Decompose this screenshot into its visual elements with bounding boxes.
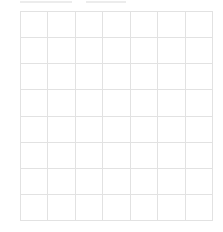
- grid-cell: [76, 143, 103, 169]
- grid-cell: [76, 117, 103, 143]
- grid-cell: [103, 117, 130, 143]
- grid-cell: [103, 38, 130, 64]
- grid-cell: [158, 12, 185, 38]
- grid-cell: [48, 117, 75, 143]
- grid-cell: [186, 38, 213, 64]
- grid-cell: [76, 90, 103, 116]
- grid-cell: [103, 12, 130, 38]
- grid-cell: [158, 38, 185, 64]
- grid-cell: [48, 38, 75, 64]
- grid-cell: [48, 12, 75, 38]
- grid-cell: [21, 143, 48, 169]
- grid-cell: [103, 90, 130, 116]
- grid-cell: [186, 64, 213, 90]
- grid-cell: [186, 12, 213, 38]
- grid-cell: [158, 117, 185, 143]
- grid-cell: [21, 195, 48, 221]
- grid-cell: [103, 64, 130, 90]
- grid-cell: [76, 38, 103, 64]
- grid-cell: [76, 169, 103, 195]
- grid-cell: [131, 90, 158, 116]
- grid-cell: [131, 64, 158, 90]
- grid-cell: [186, 117, 213, 143]
- grid-cell: [48, 90, 75, 116]
- grid-cell: [76, 12, 103, 38]
- grid-cell: [21, 12, 48, 38]
- grid-cell: [131, 195, 158, 221]
- grid-cell: [103, 143, 130, 169]
- grid-cell: [103, 195, 130, 221]
- grid-cell: [186, 195, 213, 221]
- grid-cell: [186, 169, 213, 195]
- grid-cell: [131, 169, 158, 195]
- grid-cell: [158, 64, 185, 90]
- empty-grid: [20, 11, 213, 221]
- grid-cell: [21, 90, 48, 116]
- grid-cell: [131, 143, 158, 169]
- grid-cell: [76, 64, 103, 90]
- grid-cell: [21, 64, 48, 90]
- grid-cell: [131, 12, 158, 38]
- clipped-text-segment: [86, 0, 126, 3]
- grid-cell: [158, 143, 185, 169]
- grid-cell: [186, 90, 213, 116]
- grid-cell: [158, 169, 185, 195]
- clipped-header-text: [20, 0, 200, 4]
- grid-cell: [131, 38, 158, 64]
- grid-cell: [21, 169, 48, 195]
- grid-cell: [48, 143, 75, 169]
- grid-cell: [48, 169, 75, 195]
- grid-cell: [103, 169, 130, 195]
- grid-cell: [158, 90, 185, 116]
- grid-cell: [48, 195, 75, 221]
- grid-cell: [21, 38, 48, 64]
- grid-cell: [21, 117, 48, 143]
- grid-cell: [158, 195, 185, 221]
- grid-cell: [48, 64, 75, 90]
- grid-cell: [76, 195, 103, 221]
- grid-cell: [186, 143, 213, 169]
- grid-cell: [131, 117, 158, 143]
- clipped-text-segment: [20, 0, 72, 3]
